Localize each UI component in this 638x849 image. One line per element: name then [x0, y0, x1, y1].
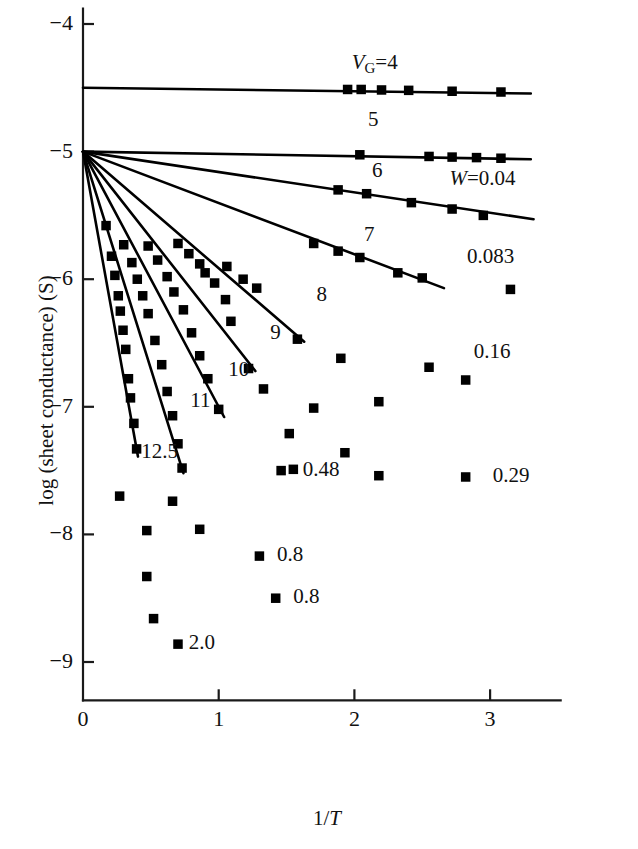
data-point-marker: [356, 85, 366, 95]
series-label-11: 11: [190, 390, 210, 411]
data-point-marker: [168, 411, 178, 421]
x-tick-label: 0: [63, 708, 103, 730]
data-point-marker: [309, 239, 319, 249]
data-point-marker: [222, 262, 232, 272]
series-label-value: =4: [375, 50, 397, 74]
w-annotation-label: 0.16: [474, 341, 511, 362]
data-point-marker: [447, 152, 457, 162]
data-point-marker: [184, 249, 194, 259]
data-point-marker: [179, 305, 189, 315]
x-axis-title-var: T: [329, 806, 341, 830]
data-point-marker: [226, 317, 236, 327]
y-tick-label: −4: [25, 12, 73, 34]
data-point-marker: [447, 86, 457, 96]
data-point-marker: [418, 273, 428, 283]
data-point-marker: [119, 240, 128, 250]
data-point-marker: [149, 614, 159, 624]
x-tick-label: 1: [199, 708, 239, 730]
data-point-marker: [362, 189, 372, 199]
data-point-marker: [210, 278, 220, 288]
data-point-marker: [143, 241, 153, 251]
data-point-marker: [479, 211, 489, 221]
data-point-marker: [121, 345, 131, 355]
data-point-marker: [195, 351, 205, 361]
data-point-marker: [153, 255, 163, 265]
series-label-subscript: G: [365, 60, 376, 76]
series-label-12.5: 12.5: [141, 441, 178, 462]
series-label-5: 5: [368, 109, 379, 130]
w-annotation-label: W=0.04: [449, 168, 515, 189]
data-point-marker: [169, 287, 179, 297]
data-point-marker: [221, 295, 231, 305]
y-axis-title: log (sheet conductance) (S): [34, 241, 59, 541]
data-point-marker: [407, 198, 417, 208]
data-point-marker: [195, 259, 205, 269]
series-fit-line: [83, 88, 531, 94]
series-label-7: 7: [364, 224, 375, 245]
data-point-marker: [271, 593, 281, 603]
data-point-marker: [107, 251, 117, 261]
data-point-marker: [377, 85, 387, 95]
data-point-marker: [289, 465, 299, 475]
data-point-marker: [259, 384, 269, 394]
series-label-variable: V: [352, 50, 365, 74]
data-point-marker: [293, 334, 303, 344]
data-point-marker: [252, 283, 261, 293]
x-tick-label: 3: [470, 708, 510, 730]
data-point-marker: [118, 325, 128, 335]
data-point-marker: [424, 362, 434, 372]
data-point-marker: [200, 268, 210, 278]
data-point-marker: [168, 496, 178, 506]
data-point-marker: [142, 526, 152, 536]
data-point-marker: [162, 272, 172, 282]
data-point-marker: [195, 525, 205, 535]
data-point-marker: [343, 85, 353, 95]
w-annotation-variable: W: [449, 166, 467, 190]
data-point-marker: [203, 374, 213, 384]
data-point-marker: [173, 639, 183, 649]
series-fit-line: [83, 152, 531, 160]
series-label-8: 8: [316, 284, 327, 305]
data-point-marker: [150, 336, 160, 346]
x-axis-title: 1/T: [313, 808, 341, 829]
data-point-marker: [472, 153, 482, 163]
data-point-marker: [110, 271, 120, 281]
y-tick-label: −9: [25, 650, 73, 672]
data-point-marker: [309, 403, 319, 413]
w-annotation-label: 2.0: [189, 632, 215, 653]
data-point-marker: [126, 393, 135, 403]
data-point-marker: [133, 274, 143, 284]
data-point-marker: [157, 360, 167, 370]
data-point-marker: [214, 405, 224, 415]
data-point-marker: [424, 152, 434, 162]
data-point-marker: [333, 246, 343, 256]
data-point-marker: [116, 306, 126, 316]
data-point-marker: [496, 153, 506, 163]
data-point-marker: [132, 444, 142, 454]
w-annotation-label: 0.8: [277, 544, 303, 565]
data-point-marker: [393, 268, 403, 278]
data-point-marker: [142, 572, 152, 582]
data-point-marker: [336, 354, 346, 364]
data-point-marker: [162, 387, 172, 397]
data-point-marker: [238, 274, 248, 284]
data-point-marker: [374, 397, 384, 407]
data-point-marker: [461, 375, 471, 385]
data-point-marker: [114, 291, 124, 301]
data-point-marker: [187, 328, 197, 338]
x-tick-label: 2: [334, 708, 374, 730]
data-point-marker: [127, 258, 136, 268]
x-axis-title-text: 1/: [313, 806, 329, 830]
data-point-marker: [355, 150, 365, 160]
data-point-marker: [143, 309, 153, 319]
y-tick-label: −5: [25, 140, 73, 162]
data-point-marker: [374, 471, 384, 481]
w-annotation-label: 0.8: [293, 586, 319, 607]
data-point-marker: [101, 221, 111, 231]
series-label-6: 6: [372, 160, 383, 181]
data-point-marker: [255, 551, 265, 561]
data-point-marker: [124, 374, 134, 384]
data-point-marker: [506, 285, 515, 295]
series-label-vg4: VG=4: [352, 52, 398, 76]
data-point-marker: [276, 466, 286, 476]
